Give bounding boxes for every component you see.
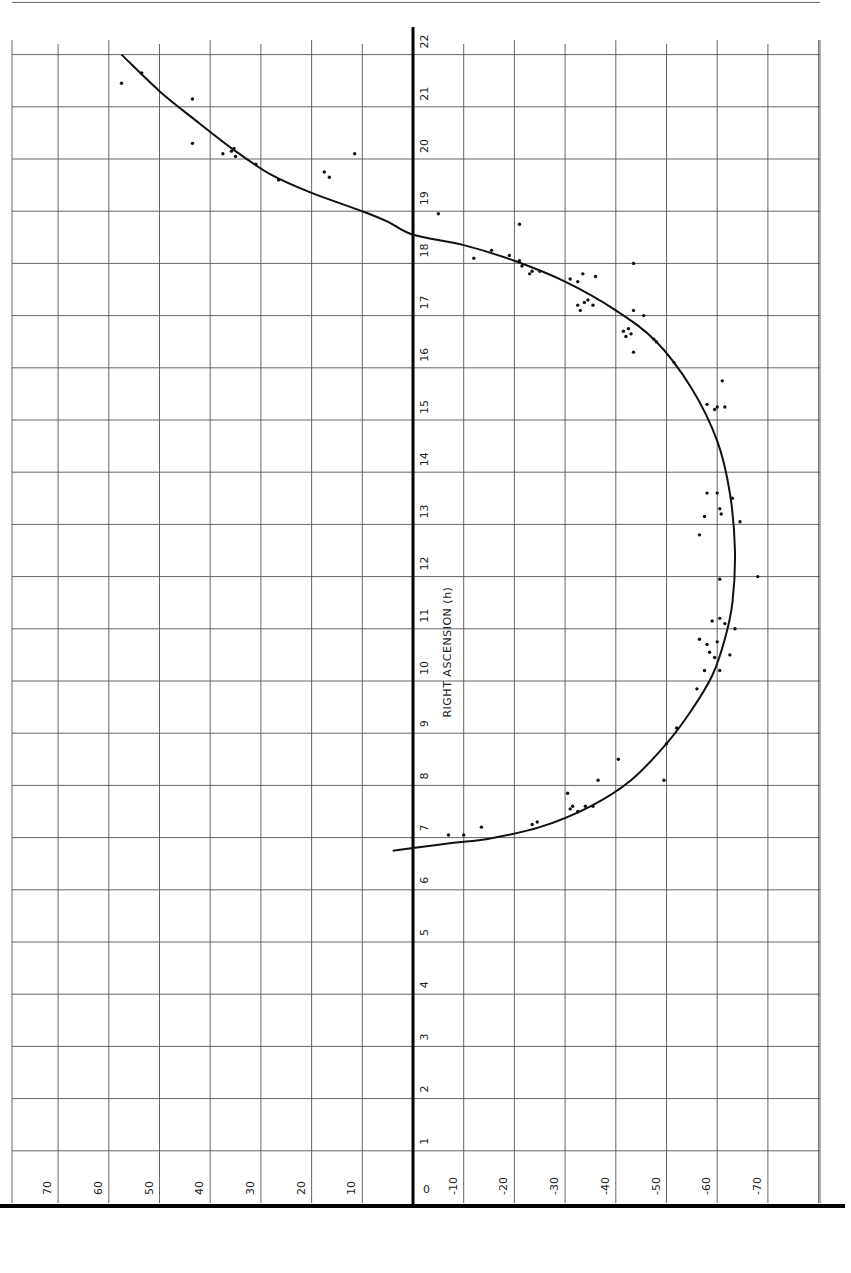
data-point bbox=[518, 223, 521, 226]
data-point bbox=[716, 491, 719, 494]
data-point bbox=[710, 619, 713, 622]
data-point bbox=[718, 669, 721, 672]
data-point bbox=[713, 656, 716, 659]
data-point bbox=[140, 71, 143, 74]
data-point bbox=[723, 405, 726, 408]
data-point bbox=[738, 520, 741, 523]
ra-tick-label: 14 bbox=[418, 452, 431, 466]
data-point bbox=[583, 301, 586, 304]
dec-tick-label: -20 bbox=[497, 1177, 510, 1195]
data-point bbox=[716, 640, 719, 643]
ra-tick-label: 21 bbox=[418, 87, 431, 101]
data-point bbox=[594, 275, 597, 278]
data-point bbox=[576, 810, 579, 813]
ra-tick-label: 17 bbox=[418, 296, 431, 310]
data-point bbox=[627, 327, 630, 330]
ra-tick-label: 15 bbox=[418, 400, 431, 414]
data-point bbox=[642, 314, 645, 317]
data-point bbox=[586, 298, 589, 301]
y-axis-title: RIGHT ASCENSION (h) bbox=[441, 587, 454, 718]
data-point bbox=[632, 350, 635, 353]
data-point bbox=[591, 805, 594, 808]
data-point bbox=[718, 617, 721, 620]
ra-tick-label: 13 bbox=[418, 504, 431, 518]
ra-tick-label: 1 bbox=[418, 1138, 431, 1145]
data-point bbox=[622, 330, 625, 333]
data-point bbox=[480, 825, 483, 828]
dec-tick-label: -40 bbox=[599, 1177, 612, 1195]
dec-tick-label: -30 bbox=[548, 1177, 561, 1195]
data-point bbox=[591, 303, 594, 306]
data-point bbox=[536, 820, 539, 823]
ra-tick-label: 9 bbox=[418, 720, 431, 727]
chart: 706050403020100-10-20-30-40-50-60-70 123… bbox=[0, 0, 851, 1273]
data-point bbox=[437, 212, 440, 215]
data-point bbox=[568, 807, 571, 810]
data-point bbox=[652, 337, 655, 340]
ra-tick-label: 10 bbox=[418, 661, 431, 675]
data-point bbox=[530, 270, 533, 273]
data-point bbox=[718, 578, 721, 581]
dec-tick-label: -70 bbox=[751, 1177, 764, 1195]
data-point bbox=[695, 687, 698, 690]
data-point bbox=[447, 833, 450, 836]
data-point bbox=[230, 149, 233, 152]
ra-tick-label: 5 bbox=[418, 929, 431, 936]
dec-tick-label: 0 bbox=[423, 1183, 430, 1196]
data-point bbox=[662, 778, 665, 781]
data-point bbox=[733, 627, 736, 630]
dec-tick-label: 60 bbox=[92, 1181, 105, 1195]
data-point bbox=[191, 97, 194, 100]
data-point bbox=[705, 643, 708, 646]
ra-tick-label: 12 bbox=[418, 557, 431, 571]
data-point bbox=[579, 309, 582, 312]
data-points bbox=[120, 71, 760, 837]
ra-tick-label: 20 bbox=[418, 139, 431, 153]
ra-tick-label: 8 bbox=[418, 772, 431, 779]
ra-tick-label: 18 bbox=[418, 243, 431, 257]
data-point bbox=[703, 669, 706, 672]
data-point bbox=[756, 575, 759, 578]
data-point bbox=[254, 163, 257, 166]
data-point bbox=[720, 512, 723, 515]
data-point bbox=[568, 277, 571, 280]
data-point bbox=[571, 805, 574, 808]
declination-tick-labels: 706050403020100-10-20-30-40-50-60-70 bbox=[41, 1177, 764, 1196]
dec-tick-label: 70 bbox=[41, 1181, 54, 1195]
data-point bbox=[703, 515, 706, 518]
data-point bbox=[713, 408, 716, 411]
ra-tick-label: 11 bbox=[418, 609, 431, 623]
data-point bbox=[665, 742, 668, 745]
data-point bbox=[716, 405, 719, 408]
data-point bbox=[490, 249, 493, 252]
data-point bbox=[576, 280, 579, 283]
data-point bbox=[508, 254, 511, 257]
ra-tick-label: 4 bbox=[418, 981, 431, 988]
data-point bbox=[624, 335, 627, 338]
data-point bbox=[462, 833, 465, 836]
data-point bbox=[723, 622, 726, 625]
dec-tick-label: -60 bbox=[700, 1177, 713, 1195]
data-point bbox=[581, 272, 584, 275]
dec-tick-label: 30 bbox=[244, 1181, 257, 1195]
data-point bbox=[596, 778, 599, 781]
data-point bbox=[576, 303, 579, 306]
data-point bbox=[323, 170, 326, 173]
data-point bbox=[221, 152, 224, 155]
ra-tick-label: 22 bbox=[418, 35, 431, 49]
data-point bbox=[232, 147, 235, 150]
data-point bbox=[566, 792, 569, 795]
data-point bbox=[120, 82, 123, 85]
data-point bbox=[698, 638, 701, 641]
data-point bbox=[530, 823, 533, 826]
data-point bbox=[705, 491, 708, 494]
data-point bbox=[234, 155, 237, 158]
data-point bbox=[672, 361, 675, 364]
data-point bbox=[518, 259, 521, 262]
data-point bbox=[528, 272, 531, 275]
data-point bbox=[538, 270, 541, 273]
dec-tick-label: -50 bbox=[650, 1177, 663, 1195]
ra-tick-label: 2 bbox=[418, 1086, 431, 1093]
ra-tick-label: 16 bbox=[418, 348, 431, 362]
data-point bbox=[353, 152, 356, 155]
